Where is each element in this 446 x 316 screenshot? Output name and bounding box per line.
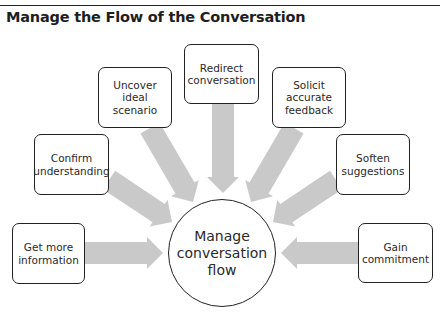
node-label: Confirm understanding (33, 152, 109, 177)
hub-circle-manage-conversation-flow: Manage conversation flow (168, 199, 276, 307)
node-gain-commitment: Gain commitment (358, 223, 433, 283)
node-solicit-accurate-feedback: Solicit accurate feedback (272, 67, 346, 128)
arrow-from-get-more-information (85, 237, 163, 269)
node-soften-suggestions: Soften suggestions (336, 134, 410, 195)
arrow-from-uncover-ideal-scenario (141, 123, 199, 203)
node-label: Get more information (18, 241, 79, 266)
arrow-from-confirm-understanding (103, 171, 172, 227)
node-label: Solicit accurate feedback (276, 79, 342, 117)
node-redirect-conversation: Redirect conversation (184, 44, 259, 104)
node-get-more-information: Get more information (12, 223, 85, 284)
node-label: Gain commitment (362, 241, 429, 266)
arrow-from-gain-commitment (281, 237, 358, 269)
node-label: Soften suggestions (342, 152, 405, 177)
arrow-from-redirect-conversation (207, 104, 239, 193)
node-label: Redirect conversation (188, 62, 256, 87)
arrow-from-solicit-accurate-feedback (245, 123, 303, 203)
hub-label: Manage conversation flow (177, 228, 267, 279)
node-label: Uncover ideal scenario (102, 79, 168, 117)
node-uncover-ideal-scenario: Uncover ideal scenario (98, 67, 172, 128)
node-confirm-understanding: Confirm understanding (34, 134, 109, 195)
arrow-from-soften-suggestions (273, 171, 342, 227)
